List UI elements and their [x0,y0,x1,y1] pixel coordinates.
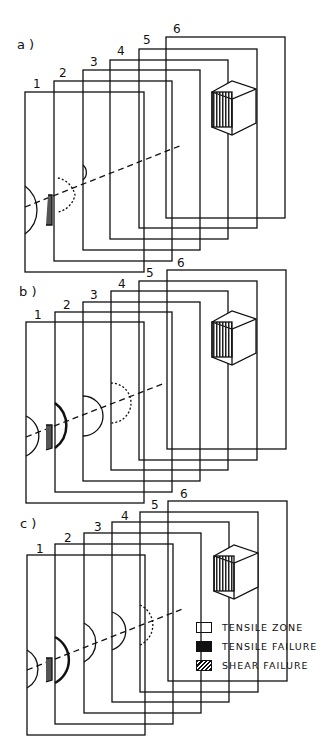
frame-number: 4 [117,45,125,57]
frame-number: 5 [146,267,154,279]
legend-label: TENSILE ZONE [222,622,303,633]
panel-b-label: b ) [19,285,36,298]
specimen-cube-b [212,311,256,365]
frame-number: 5 [143,34,151,46]
frame-number: 4 [121,510,129,522]
panel-c-label: c ) [20,517,36,530]
frame-number: 6 [173,23,181,35]
frame-number: 3 [90,56,98,68]
hatched-swatch-icon [196,660,212,671]
specimen-cube-a [212,81,256,135]
specimen-cube-c [214,545,258,599]
legend-label: SHEAR FAILURE [222,660,309,671]
legend: TENSILE ZONE TENSILE FAILURE SHEAR FAILU… [196,618,317,675]
white-swatch-icon [196,622,212,633]
legend-item-tensile-failure: TENSILE FAILURE [196,637,317,656]
frame-number: 4 [118,278,126,290]
frame-number: 5 [151,499,159,511]
legend-item-tensile-zone: TENSILE ZONE [196,618,317,637]
frame-number: 1 [34,309,42,321]
frame-number: 3 [94,521,102,533]
frame-number: 2 [64,532,72,544]
legend-item-shear-failure: SHEAR FAILURE [196,656,317,675]
frame-number: 3 [90,289,98,301]
frame-number: 2 [59,67,67,79]
frame-number: 1 [36,543,44,555]
frame-number: 2 [63,299,71,311]
black-swatch-icon [196,641,212,652]
legend-label: TENSILE FAILURE [222,641,317,652]
frame-number: 1 [33,78,41,90]
frame-number: 6 [177,257,185,269]
frame-number: 6 [180,488,188,500]
panel-a-label: a ) [17,38,34,51]
